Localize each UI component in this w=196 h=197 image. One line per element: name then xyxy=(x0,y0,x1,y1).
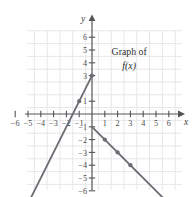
x-tick-label: −5 xyxy=(24,119,33,128)
x-tick-label: 6 xyxy=(167,119,171,128)
x-tick-label: −4 xyxy=(36,119,45,128)
data-line-right-branch xyxy=(92,127,169,197)
x-tick-label: 2 xyxy=(116,119,120,128)
y-axis-arrow-icon xyxy=(89,15,96,22)
data-point-marker xyxy=(77,99,81,103)
y-tick-label: 5 xyxy=(83,46,87,55)
y-tick-label: −4 xyxy=(78,161,87,170)
y-tick-label: 1 xyxy=(83,97,87,106)
annotation-text: Graph of xyxy=(112,46,148,57)
x-tick-label: 4 xyxy=(141,119,145,128)
y-tick-label: −2 xyxy=(78,136,87,145)
y-axis-label: y xyxy=(80,14,86,24)
coordinate-plane: −6−5−4−3−2−1123456 65431−1−2−3−4−5−6 x y… xyxy=(0,0,196,197)
x-tick-label: −3 xyxy=(49,119,58,128)
y-tick-label: 3 xyxy=(83,72,87,81)
data-point-marker xyxy=(116,150,120,154)
x-tick-label: 1 xyxy=(103,119,107,128)
data-point-marker xyxy=(90,74,94,78)
data-point-marker xyxy=(128,163,132,167)
graph-annotation: Graph off(x) xyxy=(112,46,148,72)
data-point-marker xyxy=(103,138,107,142)
x-tick-label: 5 xyxy=(154,119,158,128)
y-tick-label: −6 xyxy=(78,187,87,196)
annotation-text: f(x) xyxy=(122,60,136,72)
y-tick-label: 4 xyxy=(83,59,87,68)
axes xyxy=(25,15,185,191)
x-axis-label: x xyxy=(183,117,189,127)
x-tick-label: 3 xyxy=(128,119,132,128)
y-tick-label: 6 xyxy=(83,33,87,42)
y-tick-label: −5 xyxy=(78,174,87,183)
y-tick-label: −3 xyxy=(78,149,87,158)
grid-lines xyxy=(27,30,182,190)
x-tick-label: −6 xyxy=(11,119,20,128)
y-tick-label: −1 xyxy=(78,123,87,132)
graph-figure: −6−5−4−3−2−1123456 65431−1−2−3−4−5−6 x y… xyxy=(0,0,196,197)
